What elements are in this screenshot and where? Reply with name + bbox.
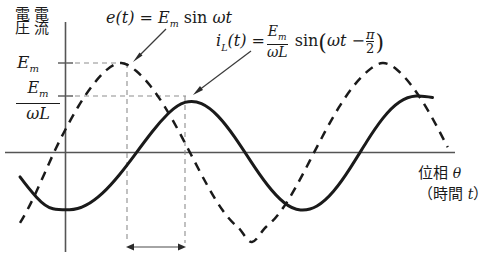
y-tick-frac-denominator: ωL [26, 104, 50, 123]
y-tick-Em-main: E [17, 52, 29, 72]
eq-voltage-amp-sub: m [170, 18, 179, 29]
eq-voltage-amp-main: E [158, 8, 170, 27]
eq-current-paren-close: ) [375, 30, 384, 55]
phase-shift-arrow [126, 244, 186, 251]
equation-voltage: e(t) = Em sin ωt [106, 8, 232, 29]
eq-current-frac-num: Em [267, 25, 288, 44]
eq-current-pi: π [366, 29, 375, 41]
eq-current-minus: − [352, 31, 365, 50]
eq-voltage-sin: sin [184, 8, 208, 27]
waveform-figure: 電圧 電流 Em Em ωL e(t) = Em sin ωt iL(t) =E… [0, 0, 503, 258]
y-axis-caption-current: 電流 [32, 6, 47, 34]
y-tick-label-Em: Em [17, 52, 39, 74]
eq-current-sin: sin [295, 31, 319, 50]
eq-current-lhs-arg: (t) [227, 31, 246, 50]
eq-voltage-equals: = [139, 8, 152, 27]
eq-current-pi-over-two: π2 [366, 29, 375, 55]
eq-voltage-lhs: e(t) [106, 8, 134, 27]
y-tick-label-Em-over-wL: Em ωL [16, 78, 60, 123]
eq-current-amplitude-fraction: EmωL [267, 25, 288, 59]
eq-current-paren-open: ( [318, 30, 327, 55]
equation-current: iL(t) =EmωL sin(ωt −π2) [216, 25, 384, 59]
eq-current-arg-first: ωt [327, 31, 346, 50]
eq-current-two: 2 [366, 41, 375, 55]
y-tick-frac-numerator: Em [27, 78, 48, 97]
x-axis-caption-time: （時間 t） [418, 184, 488, 205]
y-tick-Em-sub: m [29, 63, 38, 74]
eq-current-equals: = [251, 31, 264, 50]
y-tick-frac-num-sub: m [39, 88, 48, 99]
y-tick-frac-num-main: E [27, 78, 39, 97]
y-axis-caption-voltage: 電圧 [13, 6, 28, 34]
arrow-to-voltage-peak [133, 29, 166, 62]
x-axis-caption-phase: 位相 θ [418, 163, 488, 184]
x-axis-caption: 位相 θ （時間 t） [418, 163, 488, 205]
eq-current-frac-den: ωL [267, 44, 288, 59]
